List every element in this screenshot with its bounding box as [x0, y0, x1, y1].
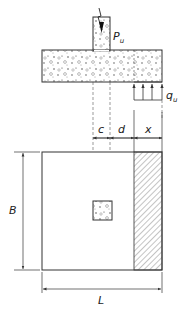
- pressure-label: qu: [166, 89, 178, 104]
- column-plan: [93, 201, 112, 220]
- dim-d-label: d: [118, 123, 126, 136]
- dim-B: [14, 152, 40, 270]
- dim-L-label: L: [98, 294, 104, 307]
- load-label: Pu: [113, 30, 125, 45]
- footing-slab-elevation: [42, 50, 162, 82]
- dim-x-label: x: [144, 123, 152, 136]
- plan-view: [42, 152, 162, 270]
- shear-area-hatched: [134, 152, 162, 270]
- dim-c-label: c: [98, 123, 104, 136]
- dim-L: [42, 272, 162, 293]
- footing-diagram: Pu qu c d x: [0, 0, 184, 310]
- pressure-arrows-icon: [134, 82, 162, 100]
- dim-B-label: B: [9, 204, 17, 217]
